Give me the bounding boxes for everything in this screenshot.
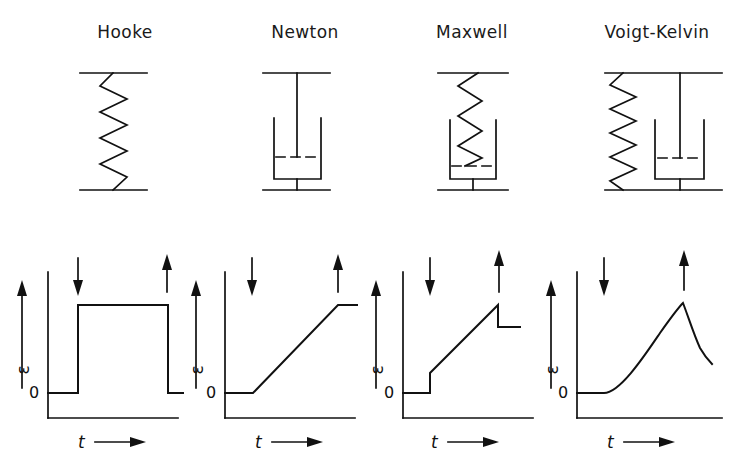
- maxwell-spring-icon: [458, 73, 482, 166]
- voigt-y-axis-label: ε: [542, 361, 562, 379]
- maxwell-origin-label: 0: [384, 383, 394, 402]
- maxwell-dashpot-cup-icon: [450, 120, 496, 179]
- graph-newton: [191, 254, 357, 447]
- voigt-x-axis-label: t: [607, 432, 614, 452]
- model-hooke: [80, 73, 147, 190]
- voigt-load-on-arrow-icon: [599, 258, 609, 296]
- graph-maxwell: [371, 250, 533, 447]
- viscoelastic-models-figure: Hooke Newton Maxwell Voigt-Kelvin: [0, 0, 745, 468]
- hooke-load-on-arrow-icon: [73, 258, 83, 296]
- graph-hooke: [17, 254, 183, 447]
- maxwell-x-axis-label: t: [431, 432, 438, 452]
- newton-y-axis-label: ε: [187, 361, 207, 379]
- hooke-strain-curve: [48, 305, 183, 393]
- model-voigt-kelvin: [605, 73, 722, 190]
- voigt-origin-label: 0: [558, 383, 568, 402]
- maxwell-load-on-arrow-icon: [425, 258, 435, 296]
- newton-origin-label: 0: [206, 383, 216, 402]
- maxwell-time-axis-arrow-icon: [448, 437, 499, 447]
- maxwell-load-off-arrow-icon: [494, 250, 504, 292]
- voigt-strain-curve: [577, 303, 712, 393]
- hooke-load-off-arrow-icon: [162, 254, 172, 292]
- newton-strain-curve: [225, 305, 357, 393]
- hooke-spring-icon: [100, 73, 127, 190]
- hooke-time-axis-arrow-icon: [95, 437, 146, 447]
- newton-x-axis-label: t: [255, 432, 262, 452]
- hooke-x-axis-label: t: [78, 432, 85, 452]
- maxwell-strain-curve: [403, 305, 520, 393]
- voigt-load-off-arrow-icon: [679, 250, 689, 290]
- maxwell-y-axis-label: ε: [367, 361, 387, 379]
- model-newton: [263, 73, 330, 190]
- voigt-time-axis-arrow-icon: [624, 437, 675, 447]
- hooke-origin-label: 0: [29, 383, 39, 402]
- newton-load-on-arrow-icon: [247, 258, 257, 296]
- newton-load-off-arrow-icon: [333, 254, 343, 292]
- hooke-y-axis-label: ε: [13, 361, 33, 379]
- model-maxwell: [438, 73, 508, 190]
- voigt-spring-icon: [610, 73, 636, 190]
- newton-time-axis-arrow-icon: [272, 437, 323, 447]
- graph-voigt-kelvin: [546, 250, 722, 447]
- models-and-curves-canvas: [0, 0, 745, 468]
